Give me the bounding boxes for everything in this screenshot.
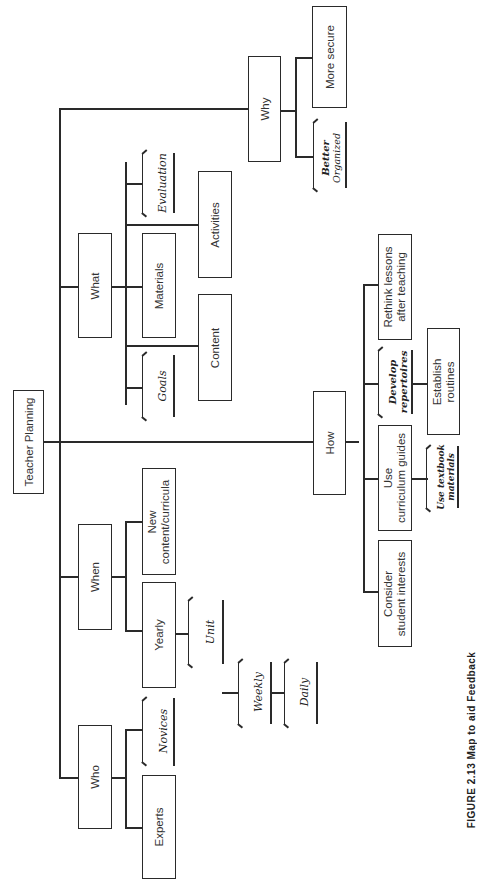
node-label: More secure <box>323 25 336 89</box>
node-materials: Materials <box>142 233 176 338</box>
connector <box>125 224 200 226</box>
handwritten-repertoires: repertoires <box>398 351 410 414</box>
connector <box>111 777 126 779</box>
connector <box>125 827 143 829</box>
node-experts: Experts <box>142 775 176 879</box>
connector <box>270 692 285 694</box>
handwritten-materials: materials <box>445 453 457 501</box>
connector <box>59 576 79 578</box>
handwritten-bracket <box>238 662 244 724</box>
node-label: Considerstudent interests <box>382 551 408 635</box>
node-label: Materials <box>153 262 166 309</box>
connector <box>280 110 296 112</box>
connector <box>363 478 379 480</box>
connector <box>125 521 127 631</box>
handwritten-bracket <box>188 600 194 664</box>
handwritten-goals: Goals <box>157 370 169 401</box>
connector <box>295 57 297 157</box>
node-use-curriculum-guides: Usecurriculum guides <box>378 425 412 531</box>
handwritten-weekly: Weekly <box>253 672 265 712</box>
node-more-secure: More secure <box>312 6 347 108</box>
connector <box>345 441 359 443</box>
node-what: What <box>78 233 112 338</box>
handwritten-bracket <box>313 122 319 188</box>
node-label: Yearly <box>153 619 166 651</box>
node-when: When <box>78 524 112 630</box>
figure-caption: FIGURE 2.13 Map to aid Feedback <box>466 652 477 829</box>
connector <box>59 777 79 779</box>
connector <box>125 521 143 523</box>
node-label: Usecurriculum guides <box>382 433 408 523</box>
connector <box>111 576 126 578</box>
node-teacher-planning: Teacher Planning <box>13 390 44 494</box>
connector <box>363 591 379 593</box>
node-label: Activities <box>209 202 222 247</box>
underline <box>316 662 318 724</box>
handwritten-bracket <box>284 662 290 724</box>
handwritten-bracket <box>142 700 148 762</box>
node-who: Who <box>78 725 112 829</box>
node-label: Rethink lessonsafter teaching <box>382 246 408 327</box>
node-label: Newcontent/curricula <box>146 479 172 563</box>
connector <box>125 183 143 185</box>
underline <box>173 355 175 417</box>
node-content: Content <box>198 294 232 401</box>
connector <box>222 692 239 694</box>
underline <box>457 446 459 508</box>
underline <box>173 153 175 213</box>
handwritten-organized: Organized <box>331 133 343 183</box>
underline <box>222 600 224 664</box>
connector <box>43 441 315 443</box>
connector <box>295 156 313 158</box>
connector <box>59 286 79 288</box>
handwritten-unit: Unit <box>205 620 217 644</box>
node-activities: Activities <box>198 171 232 278</box>
node-label: Content <box>209 327 222 367</box>
node-label: Experts <box>153 808 166 847</box>
node-label: When <box>89 562 102 592</box>
node-rethink-lessons: Rethink lessonsafter teaching <box>378 234 412 340</box>
handwritten-evaluation: Evaluation <box>157 153 169 213</box>
connector <box>125 387 143 389</box>
handwritten-bracket <box>142 355 148 417</box>
node-establish-routines: Establishroutines <box>427 328 460 435</box>
handwritten-daily: Daily <box>299 678 311 707</box>
connector <box>111 286 143 288</box>
underline <box>411 350 413 414</box>
connector <box>363 284 379 286</box>
node-label: Teacher Planning <box>22 398 35 487</box>
connector <box>59 108 249 110</box>
trunk-line <box>59 108 61 778</box>
handwritten-novices: Novices <box>158 709 170 753</box>
connector <box>411 383 428 385</box>
node-new-content-curricula: Newcontent/curricula <box>142 468 176 575</box>
node-label: What <box>89 272 102 299</box>
connector <box>125 630 143 632</box>
connector <box>363 383 379 385</box>
underline <box>345 122 347 188</box>
node-label: How <box>323 431 336 454</box>
connector <box>125 729 127 828</box>
connector <box>295 57 313 59</box>
connector <box>363 284 365 591</box>
connector <box>125 729 143 731</box>
underline <box>173 698 175 766</box>
node-label: Establishroutines <box>431 358 457 405</box>
connector <box>125 162 127 405</box>
node-why: Why <box>248 56 281 162</box>
handwritten-bracket <box>426 448 432 508</box>
connector <box>125 345 200 347</box>
handwritten-bracket <box>142 153 148 213</box>
node-label: Who <box>89 765 102 789</box>
node-how: How <box>313 391 346 495</box>
node-label: Why <box>258 98 271 121</box>
handwritten-bracket <box>378 350 384 414</box>
node-yearly: Yearly <box>142 582 176 688</box>
node-consider-student-interests: Considerstudent interests <box>378 540 412 647</box>
connector <box>175 633 189 635</box>
